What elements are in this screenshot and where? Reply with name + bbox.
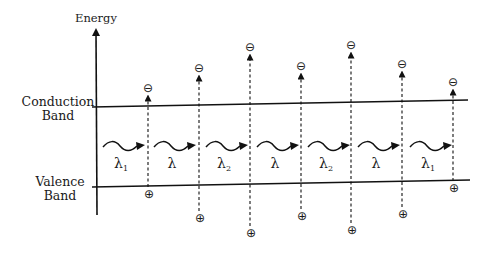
transitions: ⊖⊕⊖⊕⊖⊕⊖⊕⊖⊕⊖⊕⊖⊕ — [143, 38, 459, 240]
conduction-band-label: Conduction Band — [22, 94, 95, 123]
transition-7: ⊖⊕ — [448, 75, 459, 195]
wavy-photon-arrow — [410, 142, 444, 151]
transition-2: ⊖⊕ — [194, 61, 205, 225]
transition-5: ⊖⊕ — [346, 38, 357, 237]
wavy-photon-arrow — [308, 142, 342, 151]
hole-icon: ⊕ — [398, 207, 408, 221]
band-diagram: Energy Conduction Band Valence Band ⊖⊕⊖⊕… — [0, 0, 492, 253]
wavelength-label: λ2 — [319, 155, 333, 173]
hole-icon: ⊕ — [246, 226, 256, 240]
wavelength-label: λ — [271, 155, 280, 171]
electron-icon: ⊖ — [296, 59, 306, 73]
wavy-photon-arrow — [103, 142, 137, 151]
wavelength-label: λ1 — [114, 155, 128, 173]
photons: λ1λλ2λλ2λλ1 — [103, 142, 452, 173]
valence-label-line2: Band — [44, 188, 77, 203]
photon-1: λ1 — [103, 142, 145, 173]
valence-band-label: Valence Band — [34, 174, 84, 203]
transition-4: ⊖⊕ — [296, 59, 307, 223]
photon-7: λ1 — [410, 142, 452, 173]
transition-1: ⊖⊕ — [143, 81, 154, 201]
conduction-label-line2: Band — [42, 108, 75, 123]
photon-5: λ2 — [308, 142, 350, 173]
wavelength-label: λ1 — [421, 155, 435, 173]
hole-icon: ⊕ — [144, 187, 154, 201]
electron-icon: ⊖ — [346, 38, 356, 52]
transition-6: ⊖⊕ — [397, 57, 408, 221]
wavy-photon-arrow — [154, 142, 188, 151]
transition-3: ⊖⊕ — [245, 40, 256, 240]
energy-axis-label: Energy — [75, 11, 117, 25]
wavy-photon-arrow — [358, 142, 392, 151]
arrowhead-icon — [187, 142, 196, 150]
valence-label-line1: Valence — [34, 174, 84, 189]
arrowhead-icon — [136, 142, 145, 150]
photon-2: λ — [154, 142, 196, 171]
wavelength-label: λ — [372, 155, 381, 171]
photon-3: λ2 — [206, 142, 248, 173]
conduction-label-line1: Conduction — [22, 94, 95, 109]
electron-icon: ⊖ — [194, 61, 204, 75]
wavy-photon-arrow — [206, 142, 240, 151]
photon-6: λ — [358, 142, 400, 171]
arrowhead-icon — [290, 142, 299, 150]
electron-icon: ⊖ — [245, 40, 255, 54]
hole-icon: ⊕ — [195, 211, 205, 225]
arrowhead-icon — [391, 142, 400, 150]
arrowhead-icon — [443, 142, 452, 150]
wavelength-label: λ2 — [217, 155, 231, 173]
electron-icon: ⊖ — [397, 57, 407, 71]
wavy-photon-arrow — [257, 142, 291, 151]
arrowhead-icon — [239, 142, 248, 150]
photon-4: λ — [257, 142, 299, 171]
wavelength-label: λ — [168, 155, 177, 171]
hole-icon: ⊕ — [297, 209, 307, 223]
electron-icon: ⊖ — [448, 75, 458, 89]
arrowhead-icon — [341, 142, 350, 150]
hole-icon: ⊕ — [347, 223, 357, 237]
hole-icon: ⊕ — [449, 181, 459, 195]
valence-band-line — [92, 180, 470, 187]
electron-icon: ⊖ — [143, 81, 153, 95]
